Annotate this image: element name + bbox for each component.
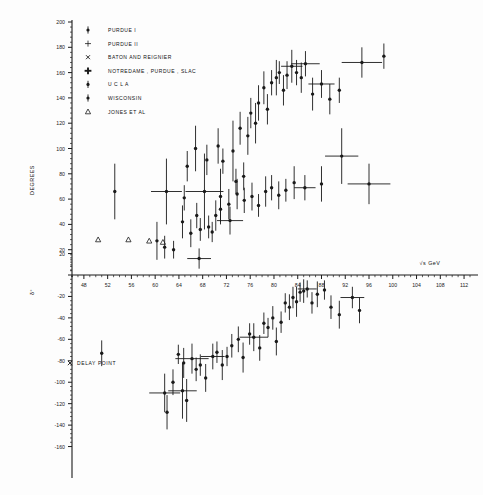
marker-dot [358,309,361,312]
data-point [302,279,305,303]
marker-dot [86,96,89,99]
marker-dot [328,97,331,100]
delay-point-label: DELAY POINT [77,360,116,366]
marker-dot [171,381,174,384]
marker-dot [100,352,103,355]
data-point [284,179,287,202]
marker-dot [295,300,298,303]
data-point [281,50,302,83]
marker-dot [243,199,246,202]
marker-dot [257,101,260,104]
marker-dot [262,86,265,89]
data-point [342,47,382,77]
x-tick-label: 108 [436,282,445,288]
marker-dot [204,376,207,379]
marker-dot [329,305,332,308]
marker-dot [249,111,252,114]
marker-dot [246,134,249,137]
data-point [257,85,260,120]
data-point [338,301,341,329]
marker-dot [194,147,197,150]
x-tick-label: 76 [247,282,253,288]
data-point [215,341,218,362]
marker-dot [163,245,166,248]
marker-dot [199,363,202,366]
marker-dot [266,108,269,111]
data-point [165,395,168,429]
marker-dot [367,182,370,185]
data-point [195,203,198,228]
data-point [291,287,294,308]
data-point [177,345,180,364]
marker-dot [155,239,158,242]
marker-dot [310,301,313,304]
data-point [257,194,260,217]
data-point [284,293,287,312]
upper-y-tick-label: 200 [56,19,65,25]
figure-root: 20406080100120140160180200DEGREES20-20-4… [0,0,483,495]
legend-item-label-3: NOTREDAME , PURDUE , SLAC [108,68,196,74]
x-tick-label: 48 [81,282,87,288]
data-point [266,94,269,124]
marker-triangle [147,238,152,243]
marker-dot [275,340,278,343]
marker-triangle [85,109,90,114]
legend-item-label-6: JONES ET AL [108,109,146,115]
marker-dot [250,195,253,198]
data-point [254,103,257,143]
marker-dot [228,219,231,222]
data-point [113,164,116,220]
data-point [199,218,202,241]
marker-dot [266,326,269,329]
data-point [149,374,180,413]
data-point [262,313,265,334]
marker-dot [238,127,241,130]
marker-dot [285,73,288,76]
data-point [310,292,313,313]
marker-dot [288,305,291,308]
data-point [205,145,208,175]
marker-dot [278,71,281,74]
marker-dot [298,290,301,293]
data-point [243,188,246,213]
marker-dot [290,65,293,68]
data-point [288,294,291,320]
upper-y-tick-label: 120 [56,120,65,126]
upper-y-tick-label: 40 [59,221,65,227]
data-point [168,363,197,419]
data-point [264,176,267,206]
marker-dot [270,186,273,189]
data-point [300,62,303,92]
marker-dot [264,190,267,193]
data-point [237,326,240,352]
x-tick-label: 68 [200,282,206,288]
marker-dot [214,214,217,217]
marker-dot [300,76,303,79]
marker-dot [323,288,326,291]
physics-scatter-figure: 20406080100120140160180200DEGREES20-20-4… [0,0,483,495]
upper-y-tick-label: 140 [56,95,65,101]
lower-y-tick-label: -160 [55,444,65,450]
data-point [214,200,217,230]
marker-dot [292,181,295,184]
marker-dot [303,186,306,189]
marker-dot [282,89,285,92]
data-point [189,219,192,247]
data-point [231,121,234,182]
data-point [194,358,197,382]
data-point [278,61,281,84]
data-point [258,335,261,361]
lower-y-tick-label: -40 [58,315,66,321]
lower-y-axis-title: δ° [29,289,35,295]
data-point [320,166,323,201]
data-point [181,205,184,238]
marker-dot [351,296,354,299]
marker-dot [183,196,186,199]
x-tick-label: 60 [152,282,158,288]
marker-dot [279,320,282,323]
marker-dot [316,293,319,296]
data-point [230,334,233,358]
legend-item-label-0: PURDUE I [108,27,136,33]
marker-dot [360,61,363,64]
data-point [328,84,331,114]
